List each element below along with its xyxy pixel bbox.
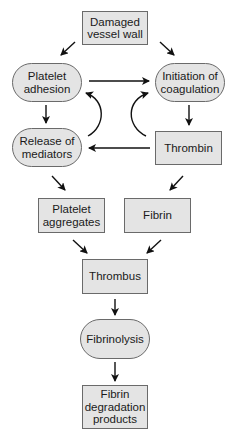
node-fibrin-degradation-products: Fibrin degradation products xyxy=(82,385,148,429)
curved-arrow-release-to-adhesion xyxy=(86,93,101,136)
node-fibrin: Fibrin xyxy=(124,198,191,233)
node-release-of-mediators: Release of mediators xyxy=(12,128,82,167)
arrow-damaged-to-adhesion xyxy=(61,42,75,55)
node-damaged-vessel-wall: Damaged vessel wall xyxy=(82,11,148,45)
arrow-release-to-aggregates xyxy=(52,176,65,190)
curved-arrow-thrombin-to-coagulation xyxy=(131,93,148,136)
node-initiation-of-coagulation: Initiation of coagulation xyxy=(155,63,225,102)
arrow-thrombin-to-fibrin xyxy=(170,176,183,190)
arrow-aggregates-to-thrombus xyxy=(73,240,87,253)
node-thrombus: Thrombus xyxy=(82,259,148,294)
arrow-damaged-to-coagulation xyxy=(160,42,174,55)
node-thrombin: Thrombin xyxy=(155,131,222,165)
node-platelet-adhesion: Platelet adhesion xyxy=(12,63,82,102)
node-platelet-aggregates: Platelet aggregates xyxy=(38,198,105,233)
arrow-fibrin-to-thrombus xyxy=(147,240,161,253)
node-fibrinolysis: Fibrinolysis xyxy=(80,319,150,359)
